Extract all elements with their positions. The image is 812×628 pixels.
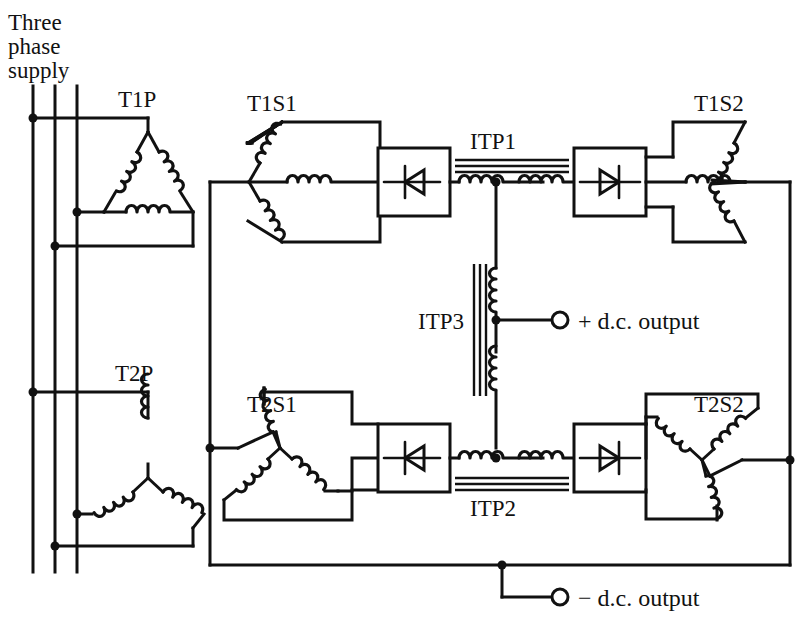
transformer-t1s2: [646, 122, 745, 242]
positive-terminal-circle[interactable]: [552, 312, 568, 328]
label-t2s2: T2S2: [694, 392, 744, 417]
t2s1-ll-lead-upper: [268, 448, 280, 459]
negative-output-label: − d.c. output: [578, 585, 700, 611]
circuit-diagram: Three phase supply T1P: [0, 0, 812, 628]
interphase-transformer-itp2: [450, 452, 574, 491]
t2s1-lr-lead-upper: [280, 448, 292, 459]
interphase-transformer-itp3: [474, 182, 501, 448]
junction-dot: [29, 388, 38, 397]
interphase-transformer-itp1: [450, 160, 574, 187]
label-itp2: ITP2: [470, 496, 516, 521]
t2s2-ur-lead-lower: [702, 449, 714, 460]
t1s2-upper-diag: [734, 122, 745, 143]
t2p-right-leg-upper: [148, 478, 163, 492]
rectifier-top-right[interactable]: [574, 148, 646, 216]
junction-dot: [51, 542, 60, 551]
t2s1-left-lead: [238, 432, 273, 448]
t2s1-lower-to-rectifier: [224, 490, 378, 520]
transformer-t1p: [29, 114, 194, 251]
supply-label-line3: supply: [8, 58, 70, 83]
t1s1-upper-lower-lead: [249, 163, 260, 182]
rectifier-bottom-left[interactable]: [378, 424, 450, 492]
t1s1-lower-upper-lead: [249, 182, 260, 201]
t1s1-upper-corner-lead: [248, 122, 282, 143]
t2s2-lower-to-rectifier: [646, 490, 717, 519]
negative-terminal-circle[interactable]: [552, 589, 568, 605]
label-t2p: T2P: [115, 361, 153, 386]
junction-dot: [73, 510, 82, 519]
label-itp3: ITP3: [418, 309, 464, 334]
junction-dot: [786, 456, 795, 465]
t2s2-right-lead: [710, 460, 742, 476]
schematic-page: Three phase supply T1P: [0, 0, 812, 628]
t2s1-mid-to-rectifier: [338, 458, 378, 491]
rectifier-bottom-right[interactable]: [574, 424, 646, 492]
negative-output-terminal[interactable]: [498, 561, 569, 606]
junction-dot: [206, 444, 215, 453]
t2s1-ll-lead-lower: [224, 491, 235, 500]
supply-label-line1: Three: [8, 10, 62, 35]
t2p-right-leg-lower: [193, 514, 204, 528]
t1p-right-leg-upper: [148, 132, 159, 152]
t1s2-lower-diag: [734, 221, 745, 242]
label-t1s2: T1S2: [694, 91, 744, 116]
positive-output-label: + d.c. output: [578, 308, 700, 334]
junction-dot: [498, 561, 507, 570]
supply-label-line2: phase: [8, 34, 60, 59]
t1s1-lower-corner-lead: [248, 221, 282, 242]
t2s2-low-lead-upper: [702, 460, 706, 476]
t2s2-mid-lead-right: [690, 449, 702, 460]
label-t1p: T1P: [118, 87, 156, 112]
junction-dot: [51, 242, 60, 251]
junction-dot: [29, 114, 38, 123]
t1p-left-leg-upper: [137, 132, 148, 152]
t1p-left-leg-lower: [104, 193, 115, 212]
positive-output-terminal[interactable]: [496, 312, 568, 328]
label-t1s1: T1S1: [247, 91, 297, 116]
junction-dot: [73, 208, 82, 217]
t2s1-up-lead-lower: [276, 432, 280, 448]
t1p-right-leg-lower: [181, 193, 193, 212]
t2p-left-leg-upper: [133, 478, 148, 492]
label-itp1: ITP1: [470, 129, 516, 154]
rectifier-top-left[interactable]: [378, 148, 450, 216]
t2s2-ur-lead-upper: [747, 408, 758, 417]
itp2-center-tap-dot: [492, 454, 501, 463]
label-t2s1: T2S1: [247, 392, 297, 417]
three-phase-supply-bus: [33, 86, 77, 572]
